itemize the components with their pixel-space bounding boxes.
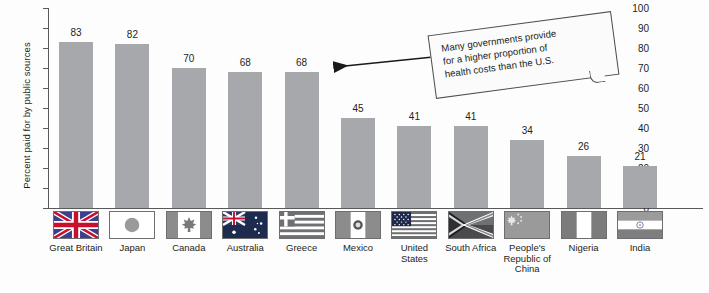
x-axis-category: India (612, 210, 668, 254)
x-axis-category-label: India (612, 243, 668, 254)
bar-value-label: 68 (228, 58, 262, 68)
bar-value-label: 34 (510, 126, 544, 136)
bar[interactable] (397, 126, 431, 208)
x-axis-category-label: Canada (161, 243, 217, 254)
flag-australia-icon (222, 211, 268, 239)
flag-mexico-icon (335, 211, 381, 239)
bar-value-label: 82 (115, 30, 149, 40)
bar[interactable] (454, 126, 488, 208)
bar-value-label: 70 (172, 54, 206, 64)
bar-item[interactable]: 68 (285, 8, 319, 208)
bar[interactable] (115, 44, 149, 208)
x-axis-category-label: Greece (274, 243, 330, 254)
bar[interactable] (228, 72, 262, 208)
flag-greece-icon (279, 211, 325, 239)
x-axis-category: Mexico (330, 210, 386, 254)
bar-item[interactable]: 68 (228, 8, 262, 208)
bar-value-label: 21 (623, 152, 657, 162)
flag-canada-icon (166, 211, 212, 239)
bar[interactable] (172, 68, 206, 208)
x-axis-category: Canada (161, 210, 217, 254)
x-axis-category: People's Republic of China (499, 210, 555, 275)
x-axis-category: Japan (104, 210, 160, 254)
x-axis-category: Australia (217, 210, 273, 254)
flag-india-icon (617, 211, 663, 239)
x-axis-category-label: People's Republic of China (499, 243, 555, 275)
flag-china-icon (504, 211, 550, 239)
bar[interactable] (285, 72, 319, 208)
bar-value-label: 83 (59, 28, 93, 38)
x-axis-categories: Great BritainJapanCanadaAustraliaGreeceM… (48, 210, 703, 293)
x-axis-category: South Africa (443, 210, 499, 254)
x-axis-category: Great Britain (48, 210, 104, 254)
bar-value-label: 26 (567, 142, 601, 152)
bar[interactable] (623, 166, 657, 208)
bar-value-label: 68 (285, 58, 319, 68)
flag-japan-icon (109, 211, 155, 239)
flag-united-states-icon (391, 211, 437, 239)
y-axis-title: Percent paid for by public sources (21, 23, 32, 208)
bar[interactable] (341, 118, 375, 208)
bar[interactable] (59, 42, 93, 208)
flag-nigeria-icon (561, 211, 607, 239)
x-axis-category-label: Great Britain (48, 243, 104, 254)
bar-item[interactable]: 83 (59, 8, 93, 208)
y-tick-mark (43, 208, 48, 209)
x-axis-category: Nigeria (556, 210, 612, 254)
bar-item[interactable]: 70 (172, 8, 206, 208)
bar[interactable] (510, 140, 544, 208)
x-axis-category-label: Australia (217, 243, 273, 254)
x-axis-category-label: Nigeria (556, 243, 612, 254)
bar-item[interactable]: 82 (115, 8, 149, 208)
bar-item[interactable]: 45 (341, 8, 375, 208)
x-axis-category-label: United States (386, 243, 442, 264)
bar-chart: Percent paid for by public sources 10090… (0, 0, 709, 293)
annotation-callout: Many governments provide for a higher pr… (421, 9, 646, 114)
bar[interactable] (567, 156, 601, 208)
x-axis-category: Greece (274, 210, 330, 254)
x-axis-category: United States (386, 210, 442, 264)
x-axis-category-label: South Africa (443, 243, 499, 254)
bar-value-label: 45 (341, 104, 375, 114)
flag-great-britain-icon (53, 211, 99, 239)
flag-south-africa-icon (448, 211, 494, 239)
x-axis-category-label: Mexico (330, 243, 386, 254)
x-axis-category-label: Japan (104, 243, 160, 254)
